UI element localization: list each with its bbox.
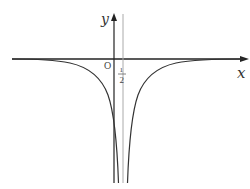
curve-right-branch: [128, 59, 245, 183]
x-axis-label: x: [237, 64, 246, 82]
curve-left-branch: [12, 59, 119, 183]
origin-label: O: [104, 60, 111, 71]
function-graph: y x O 1 2: [0, 0, 250, 189]
asymptote-label-numerator: 1: [120, 66, 124, 74]
y-axis-arrow-icon: [111, 13, 117, 21]
y-axis-label: y: [100, 11, 110, 27]
asymptote-label-denominator: 2: [120, 75, 125, 85]
